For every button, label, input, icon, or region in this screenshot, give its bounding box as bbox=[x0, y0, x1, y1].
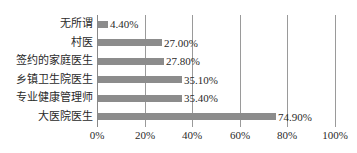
value-label: 74.90% bbox=[278, 111, 312, 123]
x-tick-label: 100% bbox=[322, 129, 348, 141]
category-label: 签约的家庭医生 bbox=[16, 55, 93, 67]
category-label: 乡镇卫生院医生 bbox=[16, 74, 93, 86]
value-label: 35.10% bbox=[184, 74, 218, 86]
gridline bbox=[192, 15, 193, 127]
horizontal-bar-chart: 无所谓4.40%村医27.00%签约的家庭医生27.80%乡镇卫生院医生35.1… bbox=[0, 0, 357, 153]
value-label: 4.40% bbox=[110, 18, 138, 30]
bar bbox=[98, 21, 108, 28]
x-tick-label: 40% bbox=[182, 129, 202, 141]
x-tick-label: 20% bbox=[135, 129, 155, 141]
category-label: 专业健康管理师 bbox=[16, 92, 93, 104]
value-label: 27.80% bbox=[166, 55, 200, 67]
value-label: 35.40% bbox=[184, 92, 218, 104]
x-tick-label: 0% bbox=[90, 129, 105, 141]
value-label: 27.00% bbox=[164, 37, 198, 49]
bar bbox=[98, 76, 182, 83]
y-axis-line bbox=[97, 15, 98, 127]
x-tick-label: 60% bbox=[230, 129, 250, 141]
bar bbox=[98, 95, 182, 102]
category-label: 大医院医生 bbox=[38, 111, 93, 123]
gridline bbox=[240, 15, 241, 127]
gridline bbox=[335, 15, 336, 127]
category-label: 村医 bbox=[71, 37, 93, 49]
x-tick-label: 80% bbox=[277, 129, 297, 141]
bar bbox=[98, 58, 164, 65]
bar bbox=[98, 39, 162, 46]
bar bbox=[98, 113, 276, 120]
gridline bbox=[145, 15, 146, 127]
category-label: 无所谓 bbox=[60, 18, 93, 30]
